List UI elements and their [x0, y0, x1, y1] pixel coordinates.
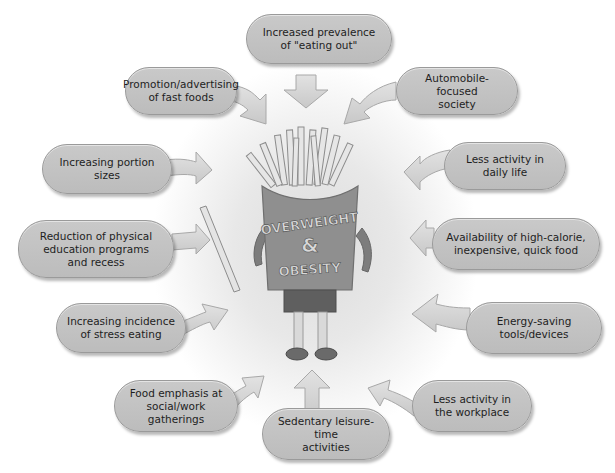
factor-label: Automobile-focused society [405, 72, 509, 111]
shorts [284, 290, 336, 312]
factor-physical-education: Reduction of physical education programs… [18, 220, 174, 278]
factor-label: Less activity in daily life [466, 153, 544, 179]
fries-icon [246, 127, 353, 188]
factor-label: Availability of high-calorie, inexpensiv… [446, 231, 585, 257]
factor-social-gatherings: Food emphasis at social/work gatherings [114, 380, 238, 432]
factor-fast-food-ads: Promotion/advertising of fast foods [125, 67, 237, 115]
factor-label: Increasing portion sizes [59, 156, 154, 182]
factor-portion-sizes: Increasing portion sizes [42, 144, 172, 194]
factor-high-calorie-food: Availability of high-calorie, inexpensiv… [432, 218, 600, 270]
factor-automobile: Automobile-focused society [396, 67, 518, 115]
right-arm [356, 228, 371, 272]
left-leg [294, 312, 303, 350]
factor-label: Increasing incidence of stress eating [67, 315, 175, 341]
factor-label: Less activity in the workplace [433, 393, 511, 419]
center-title-line2: & [301, 233, 318, 257]
left-shoe [286, 348, 308, 360]
factor-workplace-activity: Less activity in the workplace [412, 380, 532, 432]
right-leg [318, 312, 327, 350]
factor-label: Increased prevalence of "eating out" [263, 26, 376, 52]
factor-label: Energy-saving tools/devices [497, 315, 572, 341]
obesity-factors-diagram: OVERWEIGHT & OBESITY Increased prevalenc… [0, 0, 615, 473]
factor-label: Food emphasis at social/work gatherings [123, 387, 229, 426]
factor-eating-out: Increased prevalence of "eating out" [246, 14, 392, 64]
right-shoe [315, 348, 337, 360]
factor-daily-activity: Less activity in daily life [444, 142, 566, 190]
held-fry [200, 206, 240, 292]
factor-energy-saving: Energy-saving tools/devices [466, 302, 602, 354]
factor-label: Sedentary leisure-time activities [271, 415, 381, 454]
factor-label: Promotion/advertising of fast foods [123, 78, 239, 104]
factor-label: Reduction of physical education programs… [40, 230, 152, 269]
factor-sedentary-leisure: Sedentary leisure-time activities [262, 408, 390, 460]
factor-stress-eating: Increasing incidence of stress eating [56, 303, 186, 353]
